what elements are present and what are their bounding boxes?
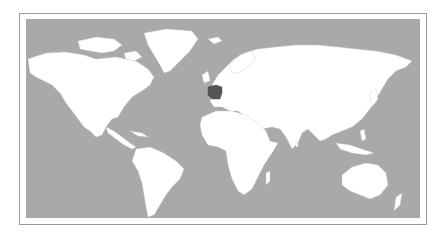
- caribbean: [130, 131, 148, 137]
- world-map: [26, 19, 420, 218]
- australia: [342, 163, 388, 199]
- madagascar: [266, 171, 270, 185]
- greenland: [144, 29, 198, 73]
- new-zealand: [394, 193, 402, 211]
- world-map-svg: [26, 19, 420, 218]
- uk: [202, 71, 210, 83]
- north-america: [28, 52, 154, 137]
- arctic-islands: [78, 37, 122, 53]
- france-highlight: [208, 85, 222, 99]
- philippines: [360, 129, 366, 141]
- indonesia: [336, 143, 374, 155]
- sri-lanka: [296, 143, 298, 147]
- map-frame: [19, 13, 427, 225]
- iceland: [208, 37, 222, 44]
- south-america: [132, 147, 184, 217]
- central-america: [106, 127, 136, 149]
